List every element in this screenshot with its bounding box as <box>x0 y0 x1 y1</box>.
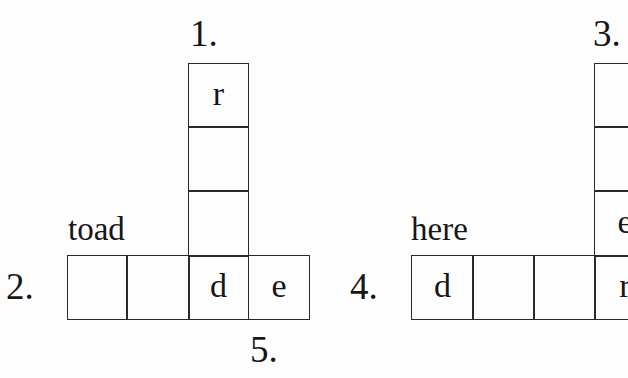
down-clue-number-1: 1. <box>190 15 218 52</box>
across-2-cell-4[interactable]: e <box>248 255 310 320</box>
down-clue-number-3: 3. <box>593 15 621 52</box>
across-2-cell-1[interactable] <box>67 255 128 320</box>
across-clue-number-4: 4. <box>350 268 378 305</box>
down-1-cell-2[interactable] <box>188 126 249 192</box>
across-4-cell-2[interactable] <box>472 255 535 320</box>
down-3-cell-3[interactable]: e <box>594 190 628 257</box>
across-2-cell-2[interactable] <box>126 255 190 320</box>
clue-word-toad: toad <box>68 213 125 246</box>
down-3-cell-1[interactable] <box>594 63 628 128</box>
down-3-cell-2[interactable] <box>594 126 628 192</box>
down-1-cell-3[interactable] <box>188 190 249 257</box>
across-clue-number-2: 2. <box>6 268 34 305</box>
across-2-cell-3[interactable]: d <box>188 255 249 320</box>
across-4-cell-3[interactable] <box>533 255 596 320</box>
clue-word-here: here <box>411 213 468 246</box>
clue-number-5: 5. <box>250 331 278 368</box>
down-1-cell-1[interactable]: r <box>188 63 249 128</box>
across-4-cell-4[interactable]: r <box>594 255 628 320</box>
across-4-cell-1[interactable]: d <box>411 255 474 320</box>
